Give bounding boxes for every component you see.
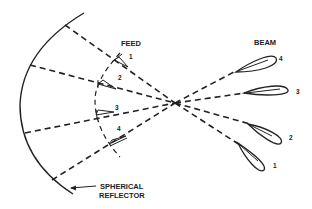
feed-horn-1 [112,54,128,67]
feed-label: FEED [121,39,142,48]
beam-label: BEAM [254,38,276,47]
feed-horns [96,54,128,146]
beam-number-1: 1 [273,162,277,169]
beam-lobe-1 [238,143,265,171]
beam-number-4: 4 [279,55,283,62]
feed-number-3: 3 [115,104,119,111]
ray-1 [65,25,175,103]
feed-number-1: 1 [129,53,133,60]
reflector-pointer [70,186,96,191]
beam-number-3: 3 [296,88,300,95]
beam-lobe-3 [244,86,288,95]
feed-number-4: 4 [117,125,121,132]
beam-lobe-2 [248,124,282,144]
beam-ray-2 [175,103,250,124]
reflector-label-line2: REFLECTOR [99,191,145,200]
beam-number-2: 2 [289,134,293,141]
feed-horn-4 [109,136,127,146]
feed-number-2: 2 [118,74,122,81]
spherical-reflector-diagram: FEED BEAM SPHERICAL REFLECTOR 1 2 3 4 4 … [0,0,312,209]
feed-horn-2 [98,80,116,89]
ray-2 [30,65,175,103]
ray-3 [25,103,175,133]
beam-ray-4 [175,72,234,103]
beam-lobe-4 [236,56,276,72]
beam-ray-1 [175,103,240,145]
ray-lines [25,25,175,180]
reflector-label-line1: SPHERICAL [100,182,144,191]
beam-rays [175,72,250,145]
beam-lobes [236,56,288,171]
